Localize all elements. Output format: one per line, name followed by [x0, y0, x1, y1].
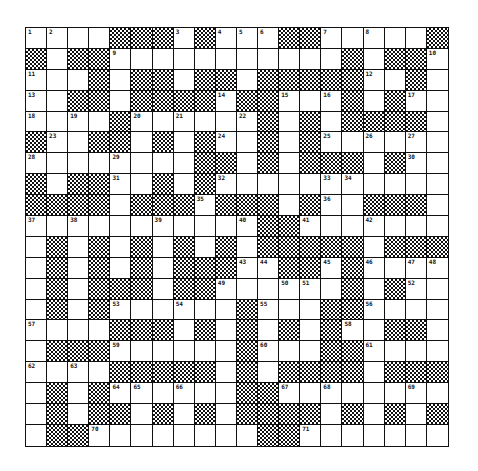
answer-cell[interactable] — [216, 112, 237, 133]
answer-cell[interactable] — [321, 216, 342, 237]
answer-cell[interactable]: 50 — [279, 279, 300, 300]
answer-cell[interactable] — [385, 70, 406, 91]
answer-cell[interactable] — [216, 425, 237, 446]
answer-cell[interactable]: 39 — [153, 216, 174, 237]
answer-cell[interactable]: 60 — [258, 341, 279, 362]
answer-cell[interactable]: 56 — [364, 300, 385, 321]
answer-cell[interactable] — [237, 279, 258, 300]
answer-cell[interactable] — [26, 258, 47, 279]
answer-cell[interactable] — [237, 425, 258, 446]
answer-cell[interactable] — [110, 70, 131, 91]
answer-cell[interactable]: 6 — [258, 28, 279, 49]
answer-cell[interactable] — [89, 28, 110, 49]
answer-cell[interactable] — [279, 341, 300, 362]
answer-cell[interactable]: 46 — [364, 258, 385, 279]
answer-cell[interactable] — [258, 362, 279, 383]
answer-cell[interactable] — [258, 174, 279, 195]
answer-cell[interactable]: 27 — [406, 132, 427, 153]
answer-cell[interactable] — [364, 91, 385, 112]
answer-cell[interactable]: 47 — [406, 258, 427, 279]
answer-cell[interactable] — [216, 341, 237, 362]
answer-cell[interactable]: 4 — [216, 28, 237, 49]
answer-cell[interactable]: 28 — [26, 153, 47, 174]
answer-cell[interactable] — [406, 174, 427, 195]
answer-cell[interactable]: 58 — [342, 320, 363, 341]
answer-cell[interactable]: 31 — [110, 174, 131, 195]
answer-cell[interactable] — [258, 279, 279, 300]
answer-cell[interactable]: 54 — [174, 300, 195, 321]
answer-cell[interactable] — [427, 112, 448, 133]
answer-cell[interactable]: 11 — [26, 70, 47, 91]
answer-cell[interactable] — [406, 425, 427, 446]
answer-cell[interactable] — [26, 279, 47, 300]
answer-cell[interactable]: 69 — [406, 383, 427, 404]
answer-cell[interactable]: 5 — [237, 28, 258, 49]
answer-cell[interactable] — [237, 153, 258, 174]
answer-cell[interactable] — [195, 216, 216, 237]
answer-cell[interactable]: 59 — [110, 341, 131, 362]
answer-cell[interactable]: 19 — [68, 112, 89, 133]
answer-cell[interactable] — [364, 362, 385, 383]
answer-cell[interactable] — [321, 279, 342, 300]
answer-cell[interactable] — [237, 132, 258, 153]
answer-cell[interactable] — [427, 383, 448, 404]
answer-cell[interactable] — [237, 49, 258, 70]
answer-cell[interactable] — [174, 132, 195, 153]
answer-cell[interactable]: 49 — [216, 279, 237, 300]
answer-cell[interactable] — [131, 49, 152, 70]
answer-cell[interactable]: 55 — [258, 300, 279, 321]
answer-cell[interactable] — [427, 279, 448, 300]
answer-cell[interactable]: 9 — [110, 49, 131, 70]
answer-cell[interactable] — [279, 153, 300, 174]
answer-cell[interactable] — [342, 28, 363, 49]
answer-cell[interactable]: 21 — [174, 112, 195, 133]
answer-cell[interactable] — [89, 362, 110, 383]
answer-cell[interactable] — [89, 216, 110, 237]
answer-cell[interactable] — [153, 153, 174, 174]
answer-cell[interactable] — [385, 341, 406, 362]
answer-cell[interactable]: 8 — [364, 28, 385, 49]
answer-cell[interactable] — [364, 49, 385, 70]
answer-cell[interactable] — [47, 174, 68, 195]
answer-cell[interactable] — [364, 404, 385, 425]
answer-cell[interactable] — [279, 300, 300, 321]
answer-cell[interactable] — [26, 341, 47, 362]
answer-cell[interactable] — [68, 70, 89, 91]
answer-cell[interactable] — [89, 153, 110, 174]
answer-cell[interactable] — [279, 112, 300, 133]
answer-cell[interactable] — [427, 341, 448, 362]
answer-cell[interactable] — [47, 320, 68, 341]
answer-cell[interactable] — [174, 49, 195, 70]
answer-cell[interactable] — [153, 258, 174, 279]
answer-cell[interactable]: 45 — [321, 258, 342, 279]
answer-cell[interactable]: 1 — [26, 28, 47, 49]
answer-cell[interactable]: 13 — [26, 91, 47, 112]
answer-cell[interactable]: 43 — [237, 258, 258, 279]
answer-cell[interactable] — [385, 132, 406, 153]
answer-cell[interactable] — [258, 49, 279, 70]
answer-cell[interactable] — [237, 174, 258, 195]
answer-cell[interactable]: 26 — [364, 132, 385, 153]
answer-cell[interactable] — [300, 91, 321, 112]
answer-cell[interactable] — [385, 174, 406, 195]
answer-cell[interactable] — [47, 49, 68, 70]
answer-cell[interactable] — [153, 383, 174, 404]
answer-cell[interactable] — [47, 216, 68, 237]
answer-cell[interactable] — [195, 49, 216, 70]
answer-cell[interactable] — [110, 258, 131, 279]
answer-cell[interactable] — [68, 279, 89, 300]
answer-cell[interactable] — [68, 153, 89, 174]
answer-cell[interactable] — [216, 404, 237, 425]
answer-cell[interactable] — [279, 132, 300, 153]
answer-cell[interactable] — [385, 258, 406, 279]
answer-cell[interactable] — [89, 320, 110, 341]
answer-cell[interactable]: 32 — [216, 174, 237, 195]
answer-cell[interactable] — [47, 112, 68, 133]
answer-cell[interactable]: 41 — [300, 216, 321, 237]
answer-cell[interactable] — [131, 404, 152, 425]
answer-cell[interactable] — [385, 383, 406, 404]
answer-cell[interactable] — [300, 383, 321, 404]
answer-cell[interactable] — [131, 174, 152, 195]
answer-cell[interactable] — [47, 91, 68, 112]
answer-cell[interactable] — [321, 112, 342, 133]
